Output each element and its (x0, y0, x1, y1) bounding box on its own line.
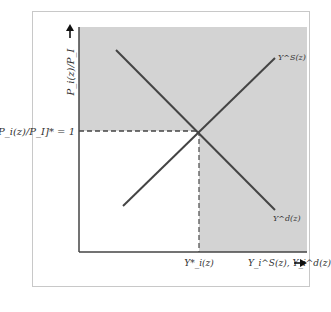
x-axis-label: Y_i^S(z), Y_i^d(z) (248, 258, 331, 269)
equilibrium-price-label: [P_i(z)/P_I]* = 1 (0, 126, 75, 138)
equilibrium-quantity-label: Y*_i(z) (184, 258, 214, 269)
y-axis-label: P_i(z)/P_I (65, 47, 77, 96)
demand-curve-label: Y^d(z) (273, 214, 301, 223)
y-axis-arrow-icon (66, 24, 74, 38)
supply-curve-label: Y^S(z) (278, 53, 306, 62)
supply-demand-diagram: P_i(z)/P_I [P_i(z)/P_I]* = 1 Y^S(z) Y^d(… (0, 0, 331, 312)
